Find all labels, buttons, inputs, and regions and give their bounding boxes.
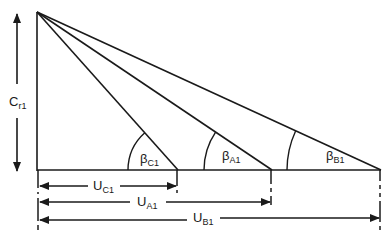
u-b1-label: UB1: [193, 210, 213, 227]
u-a1-label: UA1: [137, 194, 157, 211]
cr1-label: Cr1: [9, 94, 26, 111]
angle-label-b1: βB1: [326, 148, 345, 165]
u-c1-label: UC1: [93, 178, 114, 195]
hypotenuse-c1: [37, 12, 178, 170]
angle-label-a1: βA1: [222, 148, 241, 165]
hypotenuse-a1: [37, 12, 272, 170]
velocity-triangle-diagram: Cr1 βC1 βA1 βB1 UC1 UA1: [0, 0, 387, 236]
angle-arc-b1: [287, 131, 296, 170]
hypotenuse-b1: [37, 12, 381, 170]
angle-arc-a1: [204, 132, 216, 170]
angle-label-c1: βC1: [140, 151, 159, 168]
